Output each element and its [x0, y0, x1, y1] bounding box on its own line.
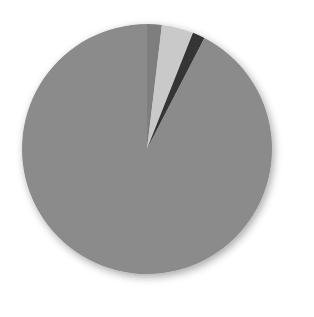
- pie-slice-4: [22, 24, 272, 274]
- pie-slices: [22, 24, 272, 274]
- pie-chart-svg: [0, 0, 314, 317]
